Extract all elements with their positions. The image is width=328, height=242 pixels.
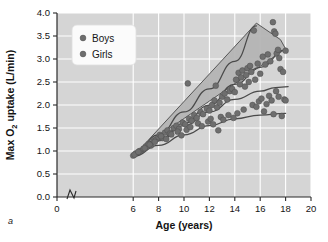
y-axis-title: Max O2 uptake (L/min) (4, 50, 19, 160)
y-tick-label: 3.0 (37, 53, 50, 64)
x-axis-title: Age (years) (155, 219, 212, 231)
y-tick-label: 0.5 (37, 168, 50, 179)
panel-label: a (8, 216, 13, 226)
y-tick-label: 2.0 (37, 99, 50, 110)
legend-marker-girls (80, 51, 86, 57)
x-tick-label: 10 (179, 203, 190, 214)
x-tick-label: 20 (306, 203, 317, 214)
x-tick-label: 16 (255, 203, 266, 214)
x-axis-ticks: 068101214161820 (54, 197, 316, 214)
legend-label-boys: Boys (92, 33, 114, 44)
y-tick-label: 0.0 (37, 191, 50, 202)
y-tick-label: 1.0 (37, 145, 50, 156)
y-tick-label: 2.5 (37, 76, 50, 87)
x-tick-label: 12 (204, 203, 215, 214)
x-tick-label: 0 (54, 203, 59, 214)
x-tick-label: 14 (230, 203, 241, 214)
chart-legend: BoysGirls (72, 25, 136, 65)
x-tick-label: 8 (156, 203, 161, 214)
x-tick-label: 18 (280, 203, 291, 214)
figure-panel: 068101214161820 0.00.51.01.52.02.53.03.5… (0, 0, 328, 242)
x-tick-label: 6 (131, 203, 136, 214)
legend-marker-boys (80, 35, 86, 41)
oxygen-uptake-scatter-chart: 068101214161820 0.00.51.01.52.02.53.03.5… (0, 0, 328, 242)
y-axis-ticks: 0.00.51.01.52.02.53.03.54.0 (37, 7, 57, 202)
legend-label-girls: Girls (92, 49, 113, 60)
y-tick-label: 1.5 (37, 122, 50, 133)
y-tick-label: 3.5 (37, 30, 50, 41)
y-tick-label: 4.0 (37, 7, 50, 18)
